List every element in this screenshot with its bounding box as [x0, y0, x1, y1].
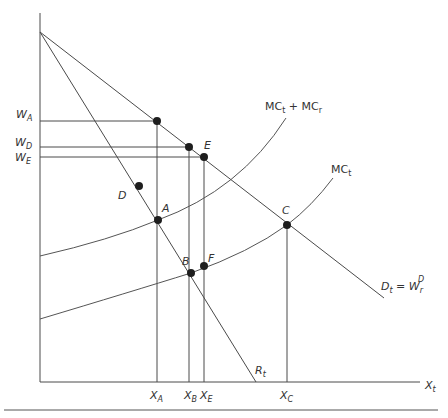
point-wd: [185, 143, 193, 151]
label-c: C: [282, 204, 290, 217]
label-xe: XE: [199, 389, 214, 404]
label-mc-t: MCt: [331, 163, 351, 178]
mc-sum-curve: [40, 118, 286, 256]
svg-text:Xt: Xt: [424, 379, 437, 394]
point-b: [187, 269, 195, 277]
economics-diagram: D A B F C E WA WD WE XA XB XE XC Xt MCt …: [0, 0, 448, 418]
label-a: A: [161, 202, 170, 215]
svg-text:XC: XC: [279, 389, 294, 404]
svg-text:Rt: Rt: [255, 364, 267, 379]
svg-text:WD: WD: [15, 136, 32, 151]
label-xc: XC: [279, 389, 294, 404]
label-f: F: [208, 252, 215, 265]
mc-t-curve: [40, 178, 333, 319]
point-f: [200, 262, 208, 270]
label-x-axis: Xt: [424, 379, 437, 394]
svg-text:WE: WE: [15, 151, 32, 166]
point-a: [154, 216, 162, 224]
label-we: WE: [15, 151, 32, 166]
point-wa: [153, 117, 161, 125]
label-xa: XA: [149, 389, 163, 404]
label-wa: WA: [16, 108, 32, 123]
svg-text:XB: XB: [183, 389, 197, 404]
label-b: B: [182, 255, 190, 268]
label-demand: Dt = WrD: [381, 275, 424, 295]
label-mc-sum: MCt + MCr: [265, 100, 323, 115]
label-xb: XB: [183, 389, 197, 404]
svg-text:MCt + MCr: MCt + MCr: [265, 100, 323, 115]
point-e: [200, 153, 208, 161]
point-d: [135, 182, 143, 190]
point-c: [283, 221, 291, 229]
svg-text:Dt = WrD: Dt = WrD: [381, 275, 424, 295]
svg-text:WA: WA: [16, 108, 32, 123]
svg-text:XE: XE: [199, 389, 214, 404]
label-e: E: [204, 139, 211, 152]
label-d: D: [118, 189, 126, 202]
label-wd: WD: [15, 136, 32, 151]
svg-text:MCt: MCt: [331, 163, 351, 178]
label-rt: Rt: [255, 364, 267, 379]
svg-text:XA: XA: [149, 389, 163, 404]
rt-line: [40, 32, 256, 382]
